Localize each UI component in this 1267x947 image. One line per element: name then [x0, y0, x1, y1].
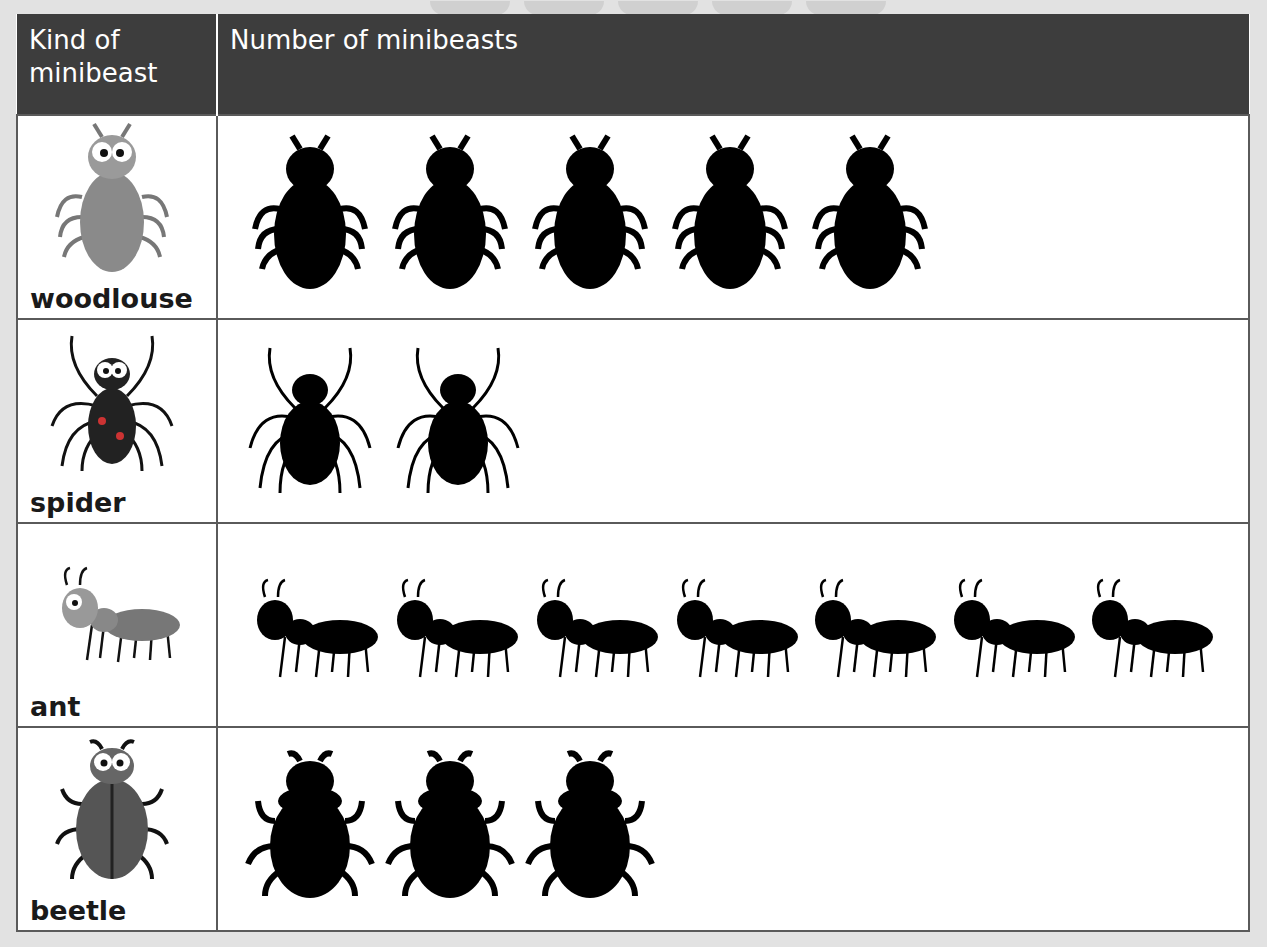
ant-pictures [240, 542, 1220, 712]
kind-label: spider [30, 487, 126, 518]
table-row-beetle: beetle [17, 727, 1249, 931]
spider-pictures [240, 338, 540, 508]
woodlouse-icon [42, 122, 182, 276]
decorative-header-shapes [430, 0, 990, 14]
number-header: Number of minibeasts [217, 14, 1249, 115]
pictogram-table: Kind of minibeast Number of minibeasts [16, 14, 1250, 932]
kind-label: ant [30, 691, 80, 722]
beetle-pictures [240, 746, 680, 916]
kind-label: woodlouse [30, 283, 193, 314]
table-row-woodlouse: woodlouse [17, 115, 1249, 319]
spider-icon [42, 326, 182, 480]
kind-header: Kind of minibeast [17, 14, 217, 115]
table-row-ant: ant [17, 523, 1249, 727]
ant-icon [42, 530, 182, 684]
kind-label: beetle [30, 895, 126, 926]
beetle-icon [42, 734, 182, 888]
woodlouse-pictures [240, 134, 940, 304]
table-row-spider: spider [17, 319, 1249, 523]
